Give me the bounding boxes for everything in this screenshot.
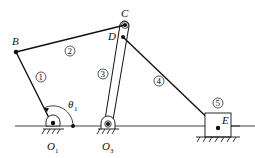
- label-theta-sub: 1: [74, 105, 78, 113]
- label-E: E: [221, 114, 229, 126]
- link-number-4: 4: [154, 76, 164, 86]
- slider-5: [196, 113, 240, 142]
- label-D: D: [107, 30, 116, 42]
- link-number-3: 3: [98, 69, 108, 79]
- link-1: [16, 52, 53, 126]
- svg-text:1: 1: [39, 72, 44, 82]
- label-O3-sub: 3: [110, 147, 114, 155]
- link-number-5: 5: [213, 98, 223, 108]
- label-O1-sub: 1: [55, 147, 59, 155]
- angle-reference-point: [71, 124, 75, 128]
- joint-D: [121, 35, 125, 39]
- pivot-O1: [42, 115, 64, 134]
- label-O3: O: [102, 140, 110, 152]
- linkage-diagram: B C D E O 1 O 3 θ 1 1 2 3 4 5: [0, 0, 255, 158]
- label-C: C: [121, 7, 129, 19]
- svg-text:3: 3: [101, 69, 106, 79]
- label-O1: O: [47, 140, 55, 152]
- pivot-O3: [97, 116, 119, 134]
- joint-B: [14, 50, 19, 55]
- label-B: B: [12, 35, 19, 47]
- joint-C: [123, 23, 127, 27]
- svg-text:4: 4: [157, 76, 162, 86]
- link-4: [123, 37, 218, 128]
- svg-text:5: 5: [216, 98, 221, 108]
- svg-text:2: 2: [68, 46, 73, 56]
- link-number-1: 1: [36, 72, 46, 82]
- link-number-2: 2: [65, 46, 75, 56]
